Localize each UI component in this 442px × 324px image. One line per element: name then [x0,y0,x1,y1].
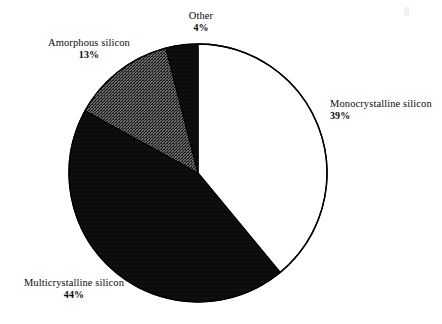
pie-label-amorphous-silicon: Amorphous silicon 13% [18,37,160,61]
pie-label-multicrystalline-silicon-percent: 44% [4,289,144,301]
pie-label-multicrystalline-silicon-name: Multicrystalline silicon [4,277,144,289]
pie-label-amorphous-silicon-percent: 13% [18,49,160,61]
pie-label-monocrystalline-silicon-name: Monocrystalline silicon [330,98,442,110]
pie-label-other: Other 4% [141,10,261,34]
pie-label-other-name: Other [141,10,261,22]
pie-label-monocrystalline-silicon: Monocrystalline silicon 39% [330,98,442,122]
pie-chart-figure: Other 4% Amorphous silicon 13% Monocryst… [0,0,442,324]
pie-label-amorphous-silicon-name: Amorphous silicon [18,37,160,49]
pie-label-other-percent: 4% [141,22,261,34]
pie-label-monocrystalline-silicon-percent: 39% [330,110,442,122]
scan-artifact-mark [404,7,409,16]
chart-plot-area: Other 4% Amorphous silicon 13% Monocryst… [0,0,442,324]
pie-label-multicrystalline-silicon: Multicrystalline silicon 44% [4,277,144,301]
